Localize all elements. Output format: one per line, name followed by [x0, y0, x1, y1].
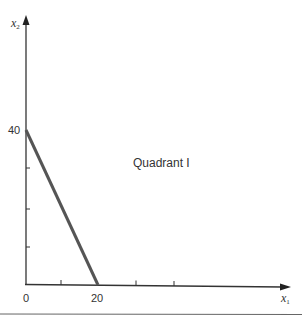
y-axis-arrowhead-icon [23, 15, 30, 25]
x-axis [25, 285, 283, 288]
y-axis-label: x2 [11, 17, 20, 31]
region-label: Quadrant I [133, 157, 190, 169]
x-axis-arrowhead-icon [280, 284, 291, 291]
x-axis-label: x1 [281, 292, 290, 306]
x-tick-label-20: 20 [91, 293, 103, 304]
x-tick-label-0: 0 [23, 293, 29, 304]
y-tick-label-40: 40 [8, 125, 20, 136]
constraint-line [26, 130, 98, 285]
bottom-rule [0, 314, 302, 315]
